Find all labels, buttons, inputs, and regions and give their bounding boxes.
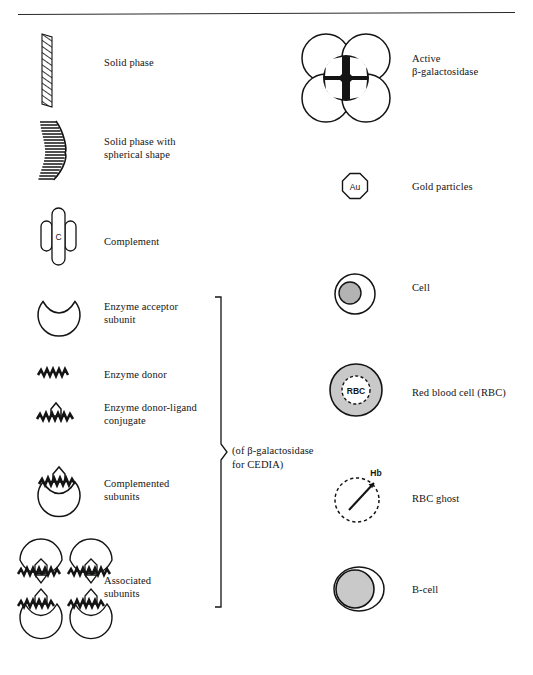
complement-letter: C [55, 232, 61, 242]
rosette-four-circles-icon [296, 30, 396, 126]
legend-label-cell: Cell [412, 281, 430, 294]
legend-label-gold-particles: Gold particles [412, 180, 473, 193]
hb-label: Hb [370, 468, 381, 478]
bracket-note-text: (of β-galactosidase for CEDIA) [232, 444, 314, 472]
complemented-subunit-icon [32, 462, 88, 518]
legend-label-red-blood-cell: Red blood cell (RBC) [412, 386, 506, 399]
rbc-icon: RBC [326, 360, 386, 420]
legend-label-complement: Complement [104, 235, 159, 248]
rbc-ghost-icon: Hb [328, 462, 394, 528]
b-cell-icon [328, 560, 390, 618]
rbc-inner-label: RBC [347, 386, 365, 396]
legend-label-rbc-ghost: RBC ghost [412, 492, 459, 505]
figure-legend-page: Solid phase [0, 0, 533, 675]
hatched-arc-icon [34, 120, 74, 182]
octagon-icon: Au [341, 172, 369, 200]
gold-particle-label: Au [350, 182, 361, 192]
legend-label-complemented-subunits: Complemented subunits [104, 477, 169, 503]
legend-label-enzyme-acceptor: Enzyme acceptor subunit [104, 300, 178, 326]
legend-label-associated-subunits: Associated subunits [104, 574, 151, 600]
associated-subunits-icon [14, 548, 118, 640]
legend-label-b-cell: B-cell [412, 583, 438, 596]
zigzag-ligand-icon [34, 400, 80, 428]
legend-label-enzyme-donor: Enzyme donor [104, 368, 167, 381]
hatched-bar-icon [38, 32, 64, 110]
legend-label-enzyme-donor-ligand: Enzyme donor-ligand conjugate [104, 401, 197, 427]
legend-label-active-beta-gal: Active β-galactosidase [412, 52, 478, 78]
legend-label-solid-phase: Solid phase [104, 56, 154, 69]
complement-icon: C [36, 206, 82, 268]
zigzag-icon [36, 364, 78, 382]
notched-circle-icon [34, 288, 84, 336]
cell-icon [328, 268, 384, 320]
legend-label-solid-phase-spherical: Solid phase with spherical shape [104, 135, 176, 161]
top-rule [18, 12, 515, 15]
